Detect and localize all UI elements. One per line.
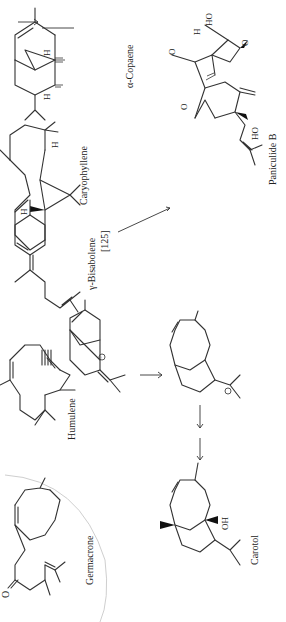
caryophyllene-h1: H bbox=[19, 208, 29, 215]
carotol-label: Carotol bbox=[249, 535, 260, 565]
germacrone-structure: O Germacrone bbox=[0, 475, 107, 622]
humulene-structure: Humulene bbox=[0, 345, 77, 440]
carotol-structure: OH Carotol bbox=[160, 463, 260, 565]
copaene-h1: H bbox=[42, 49, 52, 56]
humulene-label: Humulene bbox=[66, 398, 77, 440]
copaene-h2: H bbox=[42, 93, 52, 100]
reaction-scheme: H H α-Copaene H H Caryophyllene γ-Bisabo… bbox=[0, 0, 286, 622]
paniculide-h: H bbox=[192, 28, 202, 35]
paniculide-ring-o: O bbox=[179, 103, 189, 110]
bisabolene-structure: γ-Bisabolene [125] bbox=[15, 200, 110, 312]
paniculide-carbonyl-o: O bbox=[167, 48, 177, 55]
caryophyllene-label: Caryophyllene bbox=[78, 146, 89, 205]
copaene-structure: H H α-Copaene bbox=[15, 8, 135, 120]
equivalence-symbol bbox=[42, 350, 51, 365]
paniculide-label: Paniculide B bbox=[267, 133, 278, 185]
paniculide-oh1: HO bbox=[204, 13, 214, 26]
carbocation-structure: + bbox=[70, 300, 125, 392]
intermediate-structure bbox=[170, 311, 240, 398]
germacrone-carbonyl-o: O bbox=[0, 591, 11, 598]
bisabolene-label: γ-Bisabolene bbox=[86, 237, 97, 291]
copaene-label: α-Copaene bbox=[124, 44, 135, 88]
cation-symbol: + bbox=[100, 355, 103, 360]
caryophyllene-h2: H bbox=[50, 141, 60, 148]
paniculide-structure: O O O H HO HO Paniculide B bbox=[167, 13, 278, 185]
germacrone-label: Germacrone bbox=[84, 535, 95, 585]
paniculide-epoxide-o: O bbox=[240, 39, 250, 46]
bisabolene-ref: [125] bbox=[99, 230, 110, 252]
paniculide-oh2: HO bbox=[250, 127, 260, 140]
carotol-oh: OH bbox=[220, 517, 230, 530]
